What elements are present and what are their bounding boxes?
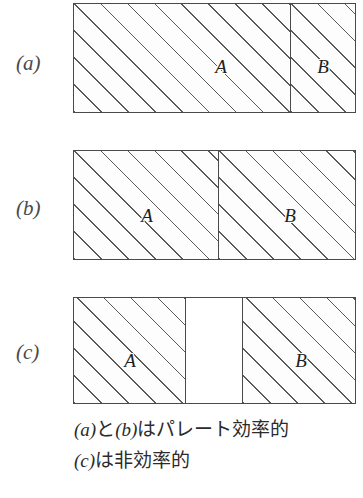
panel-label-b: (b) <box>16 196 41 221</box>
caption-line-2: (c)は非効率的 <box>74 445 363 476</box>
panel-c-label-a: A <box>124 351 136 370</box>
panel-c-label-b: B <box>295 351 307 370</box>
panel-a-region-a <box>73 3 291 113</box>
caption-ref-a: (a) <box>74 419 96 440</box>
caption-line-1: (a)と(b)はパレート効率的 <box>74 414 363 445</box>
caption-line1-mid: と <box>96 418 115 440</box>
panel-a: A B <box>73 3 356 113</box>
caption-ref-b: (b) <box>115 419 137 440</box>
panel-b-label-b: B <box>284 206 296 225</box>
caption-block: (a)と(b)はパレート効率的 (c)は非効率的 <box>74 414 363 476</box>
figure-container: (a) A B (b) A B (c) A B (a)と(b)はパレート効率的 … <box>0 0 363 498</box>
panel-c: A B <box>73 297 356 404</box>
caption-line2-suffix: は非効率的 <box>95 449 190 471</box>
panel-b-label-a: A <box>141 206 153 225</box>
caption-line1-suffix: はパレート効率的 <box>137 418 289 440</box>
panel-label-a: (a) <box>16 51 41 76</box>
panel-b: A B <box>73 150 356 260</box>
panel-c-region-gap <box>185 297 243 404</box>
panel-a-label-b: B <box>317 57 329 76</box>
panel-a-label-a: A <box>215 57 227 76</box>
caption-ref-c: (c) <box>74 450 95 471</box>
panel-label-c: (c) <box>16 340 39 365</box>
